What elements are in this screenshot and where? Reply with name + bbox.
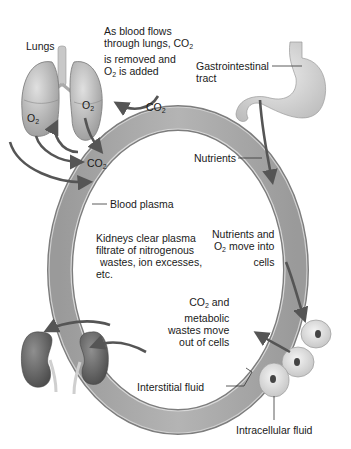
lungs-note-line-1: As blood flows — [104, 25, 193, 37]
gi-line-2: tract — [196, 72, 269, 84]
intracellular-fluid-label: Intracellular fluid — [236, 424, 312, 436]
co2-wastes-line-1: CO2 and — [168, 296, 229, 312]
o2-left-lung-label: O2 — [27, 112, 39, 125]
kidneys-note-line-3: wastes, ion excesses, — [96, 256, 202, 268]
gi-line-1: Gastrointestinal — [196, 60, 269, 72]
lungs-illustration — [22, 46, 103, 140]
nutrients-o2-note: Nutrients and O2 move into cells — [212, 228, 274, 268]
gastrointestinal-tract-label: Gastrointestinal tract — [196, 60, 269, 84]
co2-wastes-note: CO2 and metabolic wastes move out of cel… — [168, 296, 229, 348]
o2-right-lung-label: O2 — [82, 99, 94, 112]
blood-plasma-label: Blood plasma — [110, 198, 174, 210]
body-fluid-exchange-diagram: Lungs As blood flows through lungs, CO2 … — [0, 0, 351, 449]
co2-wastes-line-3: wastes move — [168, 324, 229, 336]
lungs-note-line-2: through lungs, CO2 — [104, 37, 193, 53]
kidneys-note-line-4: etc. — [96, 268, 202, 280]
nutrients-label: Nutrients — [194, 152, 236, 164]
kidneys-note: Kidneys clear plasma filtrate of nitroge… — [96, 232, 202, 280]
nutrients-o2-line-2: O2 move into — [212, 240, 274, 256]
kidneys-note-line-2: filtrate of nitrogenous — [96, 244, 202, 256]
interstitial-fluid-label: Interstitial fluid — [137, 381, 204, 393]
nutrients-o2-line-1: Nutrients and — [212, 228, 274, 240]
lungs-note-line-4: O2 is added — [104, 65, 193, 81]
lungs-note: As blood flows through lungs, CO2 is rem… — [104, 25, 193, 81]
co2-mid-label: CO2 — [87, 157, 107, 170]
co2-wastes-line-4: out of cells — [168, 336, 229, 348]
lungs-note-line-3: is removed and — [104, 53, 193, 65]
nutrients-o2-line-3: cells — [212, 256, 274, 268]
co2-top-label: CO2 — [146, 101, 166, 114]
co2-wastes-line-2: metabolic — [168, 312, 229, 324]
lungs-label: Lungs — [26, 40, 55, 52]
kidneys-note-line-1: Kidneys clear plasma — [96, 232, 202, 244]
